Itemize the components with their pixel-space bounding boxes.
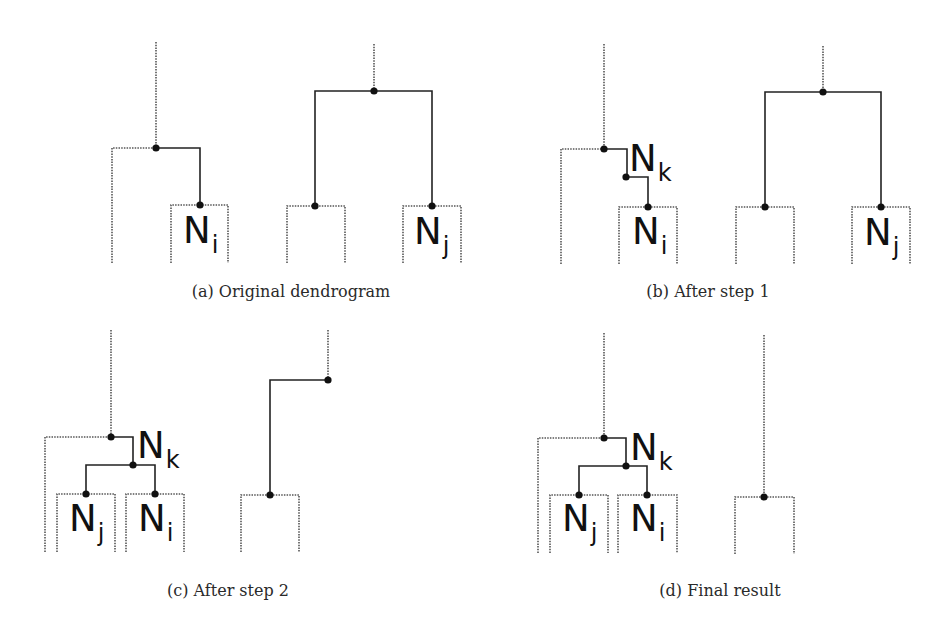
merge-node-dot: [819, 88, 826, 95]
merge-node-dot: [600, 145, 607, 152]
node-label-main: N: [630, 426, 658, 469]
dotted-branch: [287, 206, 345, 263]
node-label-subscript: i: [167, 519, 174, 547]
caption-panel-b: (b) After step 1: [646, 282, 769, 301]
caption-panel-a: (a) Original dendrogram: [192, 282, 391, 301]
node-label-main: N: [138, 497, 166, 540]
merge-node-dot: [760, 493, 767, 500]
node-label-main: N: [562, 497, 590, 540]
node-label-Nk: Nk: [630, 429, 673, 466]
panel-b: [561, 44, 910, 264]
dotted-branch: [736, 207, 794, 264]
node-label-main: N: [864, 211, 892, 254]
merge-node-dot: [428, 202, 435, 209]
node-label-subscript: j: [98, 519, 105, 547]
merge-node-dot: [129, 461, 136, 468]
node-label-main: N: [137, 424, 165, 467]
node-label-subscript: j: [893, 233, 900, 261]
node-label-main: N: [629, 137, 657, 180]
merge-node-dot: [152, 144, 159, 151]
dotted-branch: [561, 149, 604, 264]
node-label-main: N: [632, 210, 660, 253]
merge-node-dot: [877, 203, 884, 210]
solid-branch: [156, 148, 200, 205]
merge-node-dot: [600, 434, 607, 441]
node-label-Nj: Nj: [864, 214, 899, 251]
node-label-main: N: [630, 497, 658, 540]
merge-node-dot: [266, 491, 273, 498]
node-label-subscript: i: [659, 519, 666, 547]
merge-node-dot: [311, 202, 318, 209]
node-label-subscript: k: [659, 448, 673, 476]
node-label-Ni: Ni: [632, 213, 667, 250]
node-label-main: N: [414, 210, 442, 253]
node-label-subscript: j: [591, 519, 598, 547]
solid-branch: [579, 466, 647, 495]
merge-node-dot: [622, 462, 629, 469]
node-label-main: N: [183, 209, 211, 252]
solid-branch: [315, 91, 432, 206]
node-label-subscript: k: [658, 159, 672, 187]
merge-node-dot: [761, 203, 768, 210]
solid-branch: [765, 92, 881, 207]
node-label-subscript: i: [212, 231, 219, 259]
node-label-Nj: Nj: [562, 500, 597, 537]
solid-branch: [604, 438, 626, 466]
node-label-subscript: j: [443, 232, 450, 260]
caption-panel-d: (d) Final result: [659, 581, 780, 600]
solid-branch: [111, 437, 133, 465]
node-label-subscript: k: [166, 446, 180, 474]
node-label-Nk: Nk: [137, 427, 180, 464]
node-label-Nk: Nk: [629, 140, 672, 177]
merge-node-dot: [324, 376, 331, 383]
node-label-Ni: Ni: [630, 500, 665, 537]
node-label-Nj: Nj: [414, 213, 449, 250]
node-label-Nj: Nj: [69, 500, 104, 537]
dotted-branch: [112, 148, 156, 263]
dotted-branch: [735, 497, 794, 554]
panel-a: [112, 42, 461, 263]
solid-branch: [604, 149, 627, 177]
node-label-subscript: i: [661, 232, 668, 260]
node-label-main: N: [69, 497, 97, 540]
node-label-Ni: Ni: [183, 212, 218, 249]
solid-branch: [86, 465, 155, 494]
merge-node-dot: [370, 87, 377, 94]
node-label-Ni: Ni: [138, 500, 173, 537]
merge-node-dot: [107, 433, 114, 440]
merge-node-dot: [196, 201, 203, 208]
solid-branch: [270, 380, 328, 495]
caption-panel-c: (c) After step 2: [167, 581, 289, 600]
solid-branch: [626, 177, 648, 207]
dotted-branch: [241, 495, 299, 552]
